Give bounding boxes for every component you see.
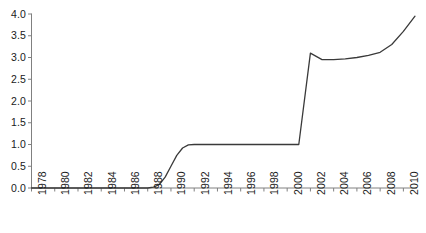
x-tick-label: 1990 <box>175 171 187 195</box>
y-tick-label: 1.0 <box>0 138 26 150</box>
x-tick-label: 1978 <box>36 171 48 195</box>
x-tick-label: 2004 <box>338 171 350 195</box>
x-tick-label: 2002 <box>315 171 327 195</box>
chart-axes <box>32 14 418 189</box>
x-tick-label: 1994 <box>222 171 234 195</box>
y-tick-label: 3.5 <box>0 29 26 41</box>
x-tick-label: 1982 <box>82 171 94 195</box>
chart-tick-marks <box>28 14 403 192</box>
x-tick-label: 2006 <box>361 171 373 195</box>
y-tick-label: 2.5 <box>0 73 26 85</box>
x-tick-label: 2008 <box>385 171 397 195</box>
y-tick-label: 0.5 <box>0 160 26 172</box>
x-tick-label: 1996 <box>245 171 257 195</box>
y-tick-label: 0.0 <box>0 182 26 194</box>
x-tick-label: 1986 <box>129 171 141 195</box>
x-tick-label: 1980 <box>59 171 71 195</box>
y-tick-label: 3.0 <box>0 51 26 63</box>
data-series-line <box>32 16 416 188</box>
x-tick-label: 1988 <box>152 171 164 195</box>
chart-plot-area <box>0 0 426 233</box>
x-tick-label: 2000 <box>292 171 304 195</box>
x-tick-label: 1992 <box>199 171 211 195</box>
x-tick-label: 2010 <box>408 171 420 195</box>
line-chart: 0.00.51.01.52.02.53.03.54.0 197819801982… <box>0 0 426 233</box>
x-tick-label: 1984 <box>106 171 118 195</box>
x-tick-label: 1998 <box>268 171 280 195</box>
y-tick-label: 1.5 <box>0 116 26 128</box>
y-tick-label: 2.0 <box>0 95 26 107</box>
chart-data-line <box>32 16 416 188</box>
y-tick-label: 4.0 <box>0 8 26 20</box>
